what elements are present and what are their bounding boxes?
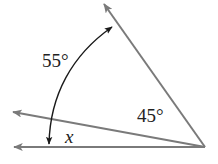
angle-label-45: 45° [137, 106, 164, 125]
angle-label-x: x [65, 127, 73, 146]
angle-label-55: 55° [42, 51, 69, 70]
angle-diagram-svg [0, 0, 218, 164]
angle-arc-55 [49, 27, 112, 144]
middle-ray [13, 112, 205, 147]
angle-diagram: 55° 45° x [0, 0, 218, 164]
